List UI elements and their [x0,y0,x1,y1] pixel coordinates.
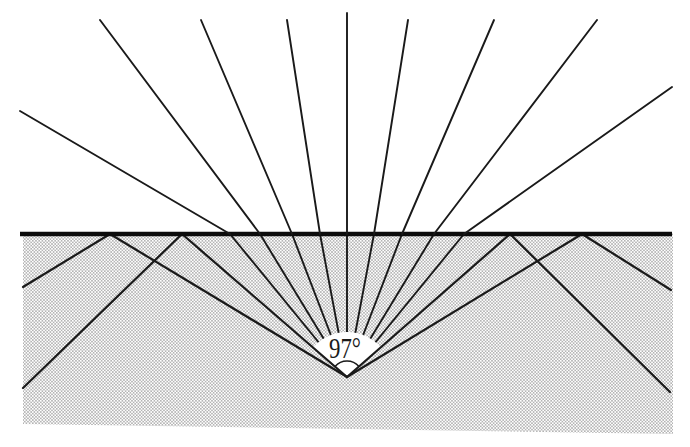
refracted-ray [464,87,672,234]
ray-diagram-canvas: 97° [0,0,690,447]
refracted-ray [434,20,597,234]
optics-figure: 97° [0,0,690,447]
refracted-ray [100,20,260,234]
refracted-ray [402,20,494,234]
angle-label: 97° [329,331,361,364]
refracted-ray [201,20,292,234]
refracted-ray [287,20,320,234]
refracted-ray [374,20,408,234]
refracted-ray [20,111,230,234]
